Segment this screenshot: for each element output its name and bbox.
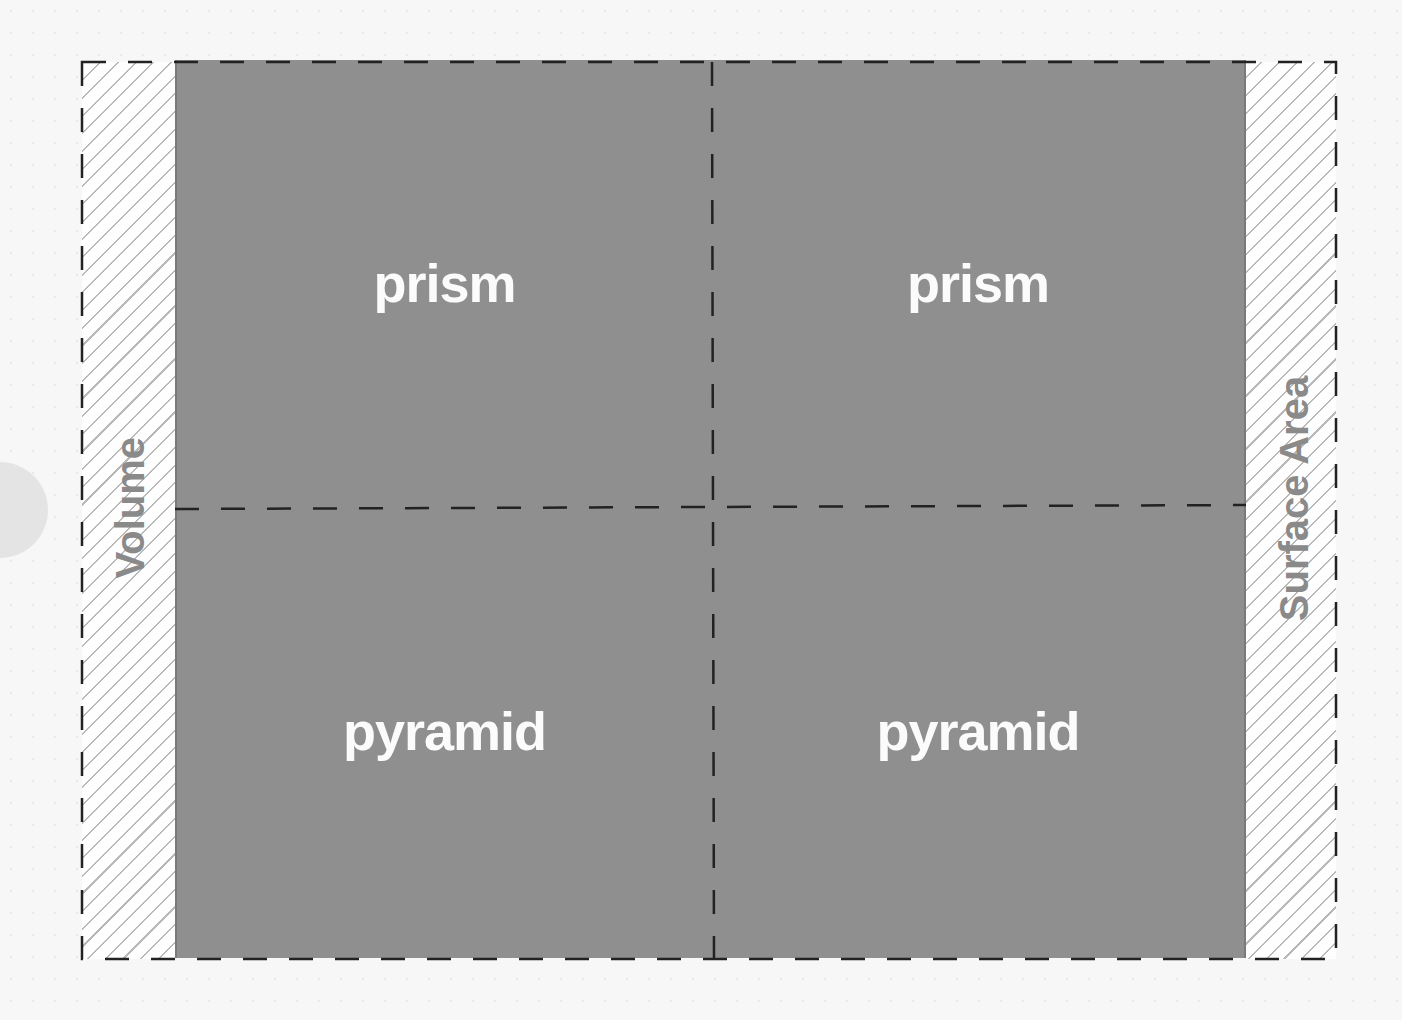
dashed-outer-border xyxy=(82,62,1336,959)
edge-circle-decoration xyxy=(0,462,48,558)
axis-label-volume: Volume xyxy=(108,439,153,579)
diagram-frame: prism prism pyramid pyramid Volume Surfa… xyxy=(82,62,1336,959)
axis-label-surface-area: Surface Area xyxy=(1272,369,1317,629)
